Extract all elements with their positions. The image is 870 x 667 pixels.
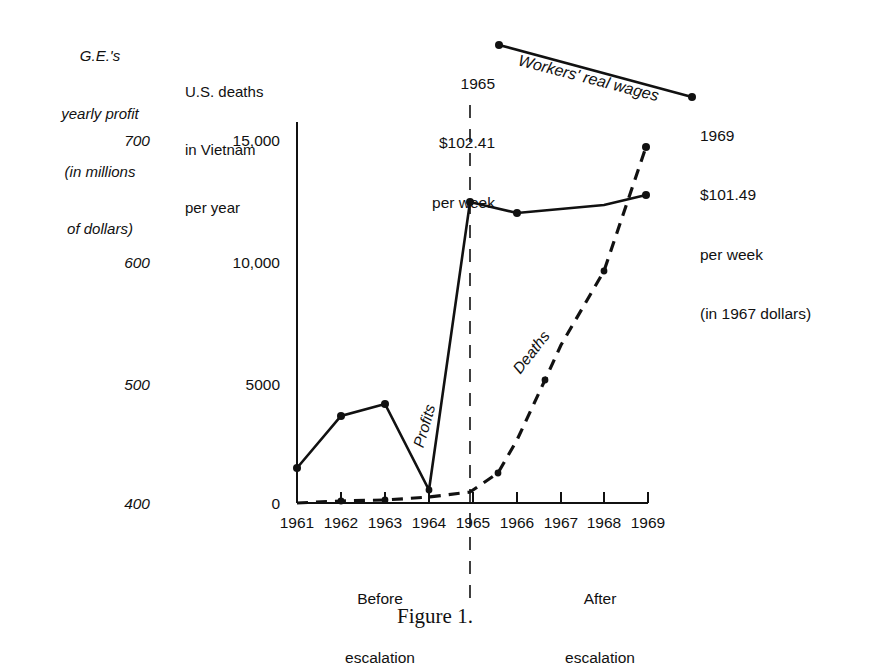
- figure-caption: Figure 1.: [320, 603, 550, 630]
- wages-start-line-2: $102.41: [360, 133, 495, 153]
- wages-start-line-3: per week: [360, 193, 495, 213]
- wages-end-line-2: $101.49: [700, 185, 870, 205]
- right-axis-tick-15000: 15,000: [175, 131, 280, 151]
- right-axis-title-line-1: U.S. deaths: [185, 82, 305, 101]
- after-escalation-line-2: escalation: [540, 648, 660, 667]
- after-escalation-line-1: After: [540, 589, 660, 609]
- left-axis-title-line-4: of dollars): [10, 219, 190, 238]
- left-axis-tick-600: 600: [70, 253, 150, 273]
- wages-start-marker: [495, 41, 503, 49]
- left-axis-tick-700: 700: [70, 131, 150, 151]
- wages-end-line-1: 1969: [700, 126, 870, 146]
- x-axis-ticks: [297, 492, 648, 503]
- wages-end-annotation: 1969 $101.49 per week (in 1967 dollars): [700, 86, 870, 364]
- left-axis-title-line-1: G.E.'s: [10, 46, 190, 65]
- before-escalation-line-2: escalation: [320, 648, 440, 667]
- wages-end-line-4: (in 1967 dollars): [700, 304, 870, 324]
- x-axis-tick-1969: 1969: [616, 513, 680, 533]
- after-escalation-label: After escalation: [540, 549, 660, 667]
- left-axis-tick-400: 400: [70, 494, 150, 514]
- left-axis-title-line-3: (in millions: [10, 162, 190, 181]
- wages-start-annotation: 1965 $102.41 per week: [360, 34, 495, 252]
- wages-end-marker: [688, 93, 696, 101]
- left-axis-tick-500: 500: [70, 375, 150, 395]
- wages-end-line-3: per week: [700, 245, 870, 265]
- right-axis-title-line-3: per year: [185, 198, 305, 217]
- right-axis-tick-10000: 10,000: [175, 253, 280, 273]
- wages-start-line-1: 1965: [360, 74, 495, 94]
- right-axis-tick-5000: 5000: [175, 375, 280, 395]
- right-axis-tick-0: 0: [175, 494, 280, 514]
- left-axis-title-line-2: yearly profit: [10, 104, 190, 123]
